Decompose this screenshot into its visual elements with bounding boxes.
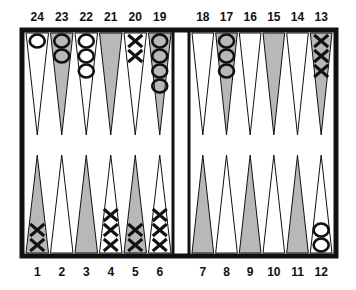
point-2[interactable] <box>51 155 74 253</box>
backgammon-board <box>0 0 356 290</box>
point-10[interactable] <box>263 155 285 253</box>
point-15[interactable] <box>263 33 285 135</box>
point-21[interactable] <box>100 33 123 135</box>
point-9[interactable] <box>239 155 261 253</box>
point-13[interactable] <box>310 33 332 135</box>
point-16[interactable] <box>239 33 261 135</box>
point-20[interactable] <box>124 33 147 135</box>
point-1[interactable] <box>26 155 49 253</box>
point-3[interactable] <box>75 155 98 253</box>
point-14[interactable] <box>287 33 309 135</box>
point-18[interactable] <box>192 33 214 135</box>
points-layer <box>26 33 332 253</box>
point-7[interactable] <box>192 155 214 253</box>
checkers-layer <box>30 35 329 252</box>
point-11[interactable] <box>287 155 309 253</box>
point-4[interactable] <box>100 155 123 253</box>
point-6[interactable] <box>149 155 172 253</box>
point-8[interactable] <box>216 155 238 253</box>
point-5[interactable] <box>124 155 147 253</box>
